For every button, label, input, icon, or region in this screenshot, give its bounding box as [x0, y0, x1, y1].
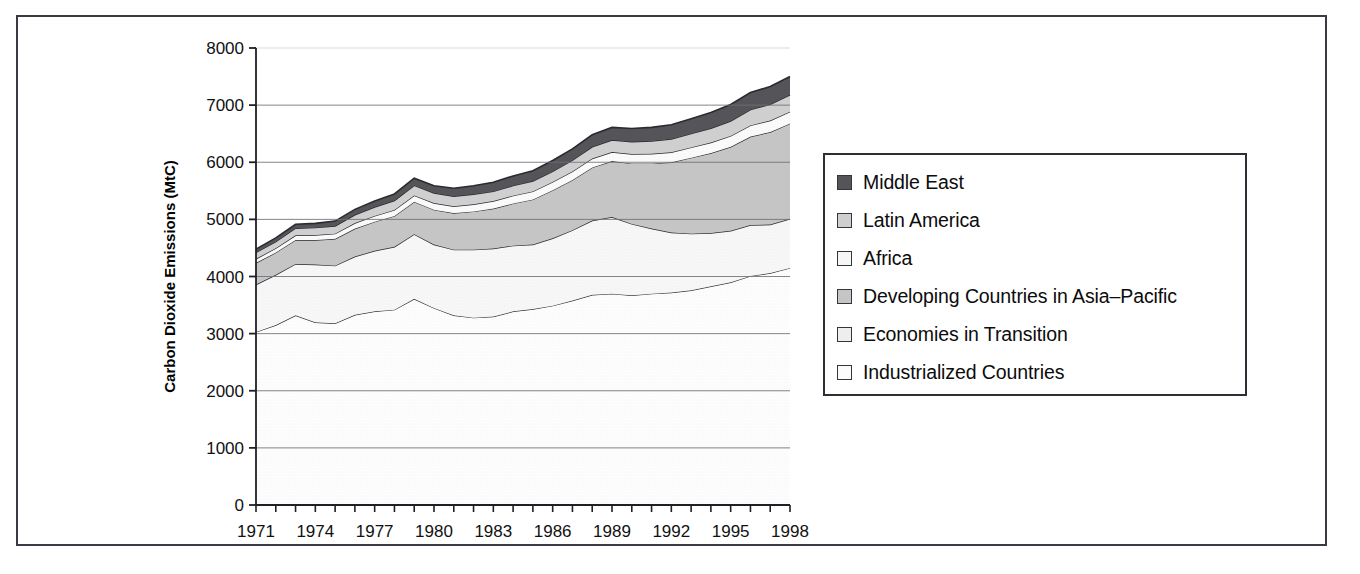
legend-item-economies-in-transition[interactable]: Economies in Transition [837, 315, 1245, 353]
x-tick-label: 1980 [415, 522, 453, 541]
legend-label-latin-america: Latin America [863, 209, 980, 232]
legend: Middle East Latin America Africa Develop… [823, 153, 1247, 396]
legend-swatch-developing-asia-pacific [837, 289, 852, 304]
y-tick-label: 3000 [206, 325, 244, 344]
figure: 0100020003000400050006000700080001971197… [0, 0, 1360, 574]
legend-label-middle-east: Middle East [863, 171, 964, 194]
legend-item-africa[interactable]: Africa [837, 239, 1245, 277]
legend-label-africa: Africa [863, 247, 912, 270]
y-axis-title-text: Carbon Dioxide Emissions (MtC) [161, 160, 178, 393]
legend-swatch-africa [837, 251, 852, 266]
x-tick-label: 1986 [534, 522, 572, 541]
x-tick-label: 1971 [237, 522, 275, 541]
legend-swatch-industrialized-countries [837, 365, 852, 380]
legend-label-industrialized-countries: Industrialized Countries [863, 361, 1064, 384]
y-tick-label: 4000 [206, 268, 244, 287]
legend-swatch-economies-in-transition [837, 327, 852, 342]
y-tick-label: 2000 [206, 382, 244, 401]
y-tick-label: 7000 [206, 96, 244, 115]
y-axis-title: Carbon Dioxide Emissions (MtC) [161, 160, 178, 393]
legend-label-developing-asia-pacific: Developing Countries in Asia–Pacific [863, 285, 1177, 308]
legend-item-middle-east[interactable]: Middle East [837, 163, 1245, 201]
y-tick-label: 6000 [206, 153, 244, 172]
x-tick-label: 1977 [356, 522, 394, 541]
x-tick-label: 1995 [712, 522, 750, 541]
legend-swatch-middle-east [837, 175, 852, 190]
y-tick-label: 5000 [206, 210, 244, 229]
y-tick-label: 8000 [206, 39, 244, 58]
y-tick-label: 1000 [206, 439, 244, 458]
legend-item-industrialized-countries[interactable]: Industrialized Countries [837, 353, 1245, 391]
legend-swatch-latin-america [837, 213, 852, 228]
y-tick-label: 0 [235, 496, 244, 515]
legend-label-economies-in-transition: Economies in Transition [863, 323, 1068, 346]
x-tick-label: 1998 [771, 522, 809, 541]
x-tick-label: 1992 [652, 522, 690, 541]
x-tick-label: 1974 [296, 522, 334, 541]
legend-item-latin-america[interactable]: Latin America [837, 201, 1245, 239]
x-tick-label: 1983 [474, 522, 512, 541]
legend-item-developing-asia-pacific[interactable]: Developing Countries in Asia–Pacific [837, 277, 1245, 315]
x-tick-label: 1989 [593, 522, 631, 541]
